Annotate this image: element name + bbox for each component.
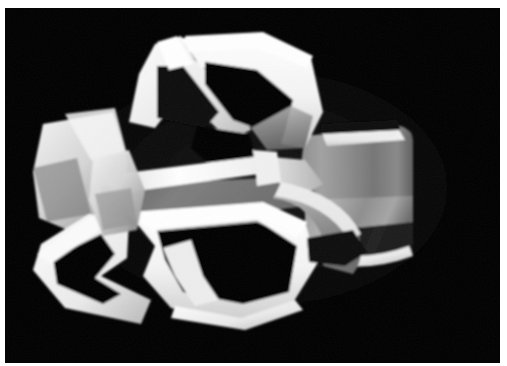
photograph-frame bbox=[0, 0, 507, 366]
film-grain-overlay bbox=[5, 8, 500, 363]
sculpture-photograph bbox=[5, 8, 500, 363]
photograph-plate bbox=[5, 8, 500, 363]
